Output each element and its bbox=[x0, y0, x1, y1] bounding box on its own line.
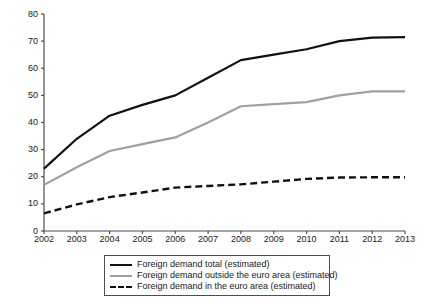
chart-legend: Foreign demand total (estimated) Foreign… bbox=[104, 255, 330, 296]
legend-label-total: Foreign demand total (estimated) bbox=[137, 259, 270, 270]
y-tick-label: 60 bbox=[12, 64, 38, 73]
y-axis-tick-labels: 01020304050607080 bbox=[8, 0, 38, 304]
legend-item-in-euro-area: Foreign demand in the euro area (estimat… bbox=[109, 281, 325, 292]
series-line-in-euro-area bbox=[44, 177, 405, 213]
y-tick-label: 10 bbox=[12, 199, 38, 208]
x-tick-label: 2013 bbox=[385, 234, 425, 245]
y-tick-label: 30 bbox=[12, 145, 38, 154]
y-tick-label: 40 bbox=[12, 118, 38, 127]
chart-series-group bbox=[44, 37, 405, 213]
series-line-total bbox=[44, 37, 405, 169]
legend-item-outside-euro-area: Foreign demand outside the euro area (es… bbox=[109, 270, 325, 281]
series-line-outside-euro-area bbox=[44, 91, 405, 185]
legend-label-outside: Foreign demand outside the euro area (es… bbox=[137, 270, 338, 281]
legend-line-swatch-outside bbox=[109, 270, 133, 281]
legend-item-total: Foreign demand total (estimated) bbox=[109, 259, 325, 270]
y-tick-label: 20 bbox=[12, 172, 38, 181]
y-tick-label: 70 bbox=[12, 37, 38, 46]
y-tick-label: 50 bbox=[12, 91, 38, 100]
legend-label-inside: Foreign demand in the euro area (estimat… bbox=[137, 281, 316, 292]
chart-figure: 01020304050607080 2002200320042005200620… bbox=[0, 0, 426, 304]
legend-line-swatch-total bbox=[109, 259, 133, 270]
x-axis-tick-labels: 2002200320042005200620072008200920102011… bbox=[44, 234, 405, 248]
legend-line-swatch-inside bbox=[109, 281, 133, 292]
y-tick-label: 80 bbox=[12, 10, 38, 19]
chart-axes bbox=[41, 14, 405, 234]
